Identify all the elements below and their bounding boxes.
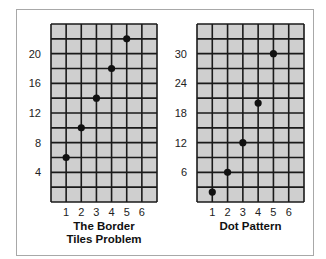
data-point: [78, 124, 85, 131]
dot-pattern-chart: 123456612182430Dot Pattern: [175, 24, 304, 232]
x-tick-label: 6: [139, 206, 145, 218]
data-point: [93, 95, 100, 102]
border-tiles-chart: 12345648121620The BorderTiles Problem: [29, 24, 157, 245]
data-point: [108, 65, 115, 72]
charts-canvas: 12345648121620The BorderTiles Problem123…: [0, 0, 326, 259]
chart-title: The Border: [73, 220, 135, 232]
y-tick-label: 20: [29, 48, 41, 60]
data-point: [224, 169, 231, 176]
x-tick-label: 1: [209, 206, 215, 218]
x-tick-label: 1: [63, 206, 69, 218]
chart-title: Dot Pattern: [220, 220, 282, 232]
y-tick-label: 6: [181, 166, 187, 178]
y-tick-label: 8: [35, 137, 41, 149]
x-tick-label: 2: [225, 206, 231, 218]
y-tick-label: 30: [175, 48, 187, 60]
y-tick-label: 18: [175, 107, 187, 119]
data-point: [239, 139, 246, 146]
y-tick-label: 16: [29, 77, 41, 89]
data-point: [270, 50, 277, 57]
x-tick-label: 3: [240, 206, 246, 218]
x-tick-label: 6: [286, 206, 292, 218]
chart-title: Tiles Problem: [66, 233, 141, 245]
x-tick-label: 5: [270, 206, 276, 218]
y-tick-label: 4: [35, 166, 41, 178]
y-tick-label: 12: [29, 107, 41, 119]
x-tick-label: 4: [255, 206, 261, 218]
x-tick-label: 4: [109, 206, 115, 218]
y-tick-label: 24: [175, 77, 187, 89]
x-tick-label: 3: [93, 206, 99, 218]
data-point: [123, 35, 130, 42]
data-point: [209, 189, 216, 196]
data-point: [255, 100, 262, 107]
data-point: [63, 154, 70, 161]
x-tick-label: 2: [78, 206, 84, 218]
y-tick-label: 12: [175, 137, 187, 149]
x-tick-label: 5: [124, 206, 130, 218]
